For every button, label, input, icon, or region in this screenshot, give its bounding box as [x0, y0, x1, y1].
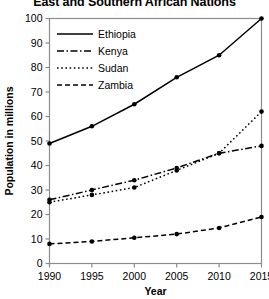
y-axis-tick-label: 60 — [31, 110, 43, 122]
y-axis-tick-label: 0 — [37, 257, 43, 269]
x-axis-title: Year — [144, 285, 166, 297]
y-axis-tick-label: 100 — [25, 12, 43, 24]
y-axis-title: Population in millions — [3, 86, 15, 195]
data-point-sudan-2000 — [132, 185, 137, 190]
data-point-zambia-1995 — [90, 239, 95, 244]
data-point-sudan-1995 — [90, 193, 95, 198]
data-point-zambia-2000 — [132, 235, 137, 240]
series-line-ethiopia — [50, 19, 262, 144]
y-axis-tick-label: 70 — [31, 86, 43, 98]
line-chart-plot: 0102030405060708090100199019952000200520… — [0, 0, 269, 299]
data-point-zambia-1990 — [47, 242, 52, 247]
data-point-ethiopia-1990 — [47, 141, 52, 146]
data-point-zambia-2010 — [217, 226, 222, 231]
legend-label-zambia: Zambia — [98, 79, 133, 91]
y-axis-tick-label: 20 — [31, 208, 43, 220]
data-point-zambia-2015 — [259, 215, 264, 220]
y-axis-tick-label: 90 — [31, 37, 43, 49]
y-axis-tick-label: 50 — [31, 135, 43, 147]
y-axis-tick-label: 30 — [31, 184, 43, 196]
data-point-sudan-2010 — [217, 151, 222, 156]
legend-label-kenya: Kenya — [98, 45, 128, 57]
data-point-kenya-1995 — [90, 188, 95, 193]
data-point-sudan-2015 — [259, 109, 264, 114]
x-axis-tick-label: 2015 — [250, 270, 269, 282]
series-line-zambia — [50, 217, 262, 244]
series-line-sudan — [50, 112, 262, 203]
legend-label-ethiopia: Ethiopia — [98, 28, 136, 40]
x-axis-tick-label: 1990 — [38, 270, 62, 282]
plot-frame — [50, 19, 262, 264]
data-point-ethiopia-2015 — [259, 16, 264, 21]
data-point-ethiopia-2000 — [132, 102, 137, 107]
data-point-kenya-2015 — [259, 144, 264, 149]
data-point-kenya-2000 — [132, 178, 137, 183]
data-point-ethiopia-2005 — [174, 75, 179, 80]
data-point-ethiopia-2010 — [217, 53, 222, 58]
y-axis-tick-label: 80 — [31, 61, 43, 73]
x-axis-tick-label: 2005 — [165, 270, 189, 282]
series-line-kenya — [50, 146, 262, 200]
x-axis-tick-label: 2000 — [123, 270, 147, 282]
data-point-sudan-1990 — [47, 200, 52, 205]
y-axis-tick-label: 40 — [31, 159, 43, 171]
y-axis-tick-label: 10 — [31, 233, 43, 245]
data-point-ethiopia-1995 — [90, 124, 95, 129]
legend-label-sudan: Sudan — [98, 62, 129, 74]
data-point-zambia-2005 — [174, 232, 179, 237]
chart-figure: East and Southern African Nations 010203… — [0, 0, 269, 299]
x-axis-tick-label: 1995 — [80, 270, 104, 282]
data-point-sudan-2005 — [174, 168, 179, 173]
x-axis-tick-label: 2010 — [207, 270, 231, 282]
